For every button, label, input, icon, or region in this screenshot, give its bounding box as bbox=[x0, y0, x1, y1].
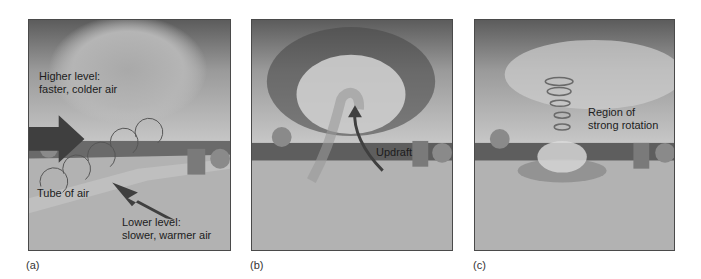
higher-level-description: faster, colder air bbox=[39, 83, 117, 96]
rotation-annotation: Region of strong rotation bbox=[588, 106, 658, 132]
panel-a-label: (a) bbox=[26, 259, 39, 271]
rotation-label: Region of bbox=[588, 106, 658, 119]
panel-b-label: (b) bbox=[250, 259, 263, 271]
panel-c-label: (c) bbox=[473, 259, 486, 271]
updraft-tilting-illustration bbox=[252, 20, 452, 250]
panel-c-rotation: Region of strong rotation bbox=[474, 19, 675, 251]
storm-cloud bbox=[505, 40, 674, 109]
higher-level-label: Higher level: bbox=[39, 70, 117, 83]
higher-level-annotation: Higher level: faster, colder air bbox=[39, 70, 117, 96]
lower-level-annotation: Lower level: slower, warmer air bbox=[122, 216, 211, 242]
rotation-description: strong rotation bbox=[588, 119, 658, 132]
strong-rotation-illustration bbox=[475, 20, 674, 250]
barn-icon bbox=[633, 143, 649, 169]
updraft-label: Updraft bbox=[376, 146, 412, 159]
tree-icon bbox=[490, 129, 510, 149]
tree-icon bbox=[210, 149, 230, 169]
lower-level-description: slower, warmer air bbox=[122, 229, 211, 242]
barn-icon bbox=[412, 141, 428, 167]
tree-icon bbox=[432, 143, 452, 163]
barn-icon bbox=[187, 149, 205, 175]
lower-level-label: Lower level: bbox=[122, 216, 211, 229]
debris-cloud bbox=[537, 141, 587, 173]
panel-b-updraft: Updraft bbox=[251, 19, 453, 251]
tree-icon bbox=[272, 127, 292, 147]
tube-of-air-label: Tube of air bbox=[37, 187, 89, 200]
panel-a-tube-of-air: Higher level: faster, colder air Tube of… bbox=[28, 19, 231, 251]
